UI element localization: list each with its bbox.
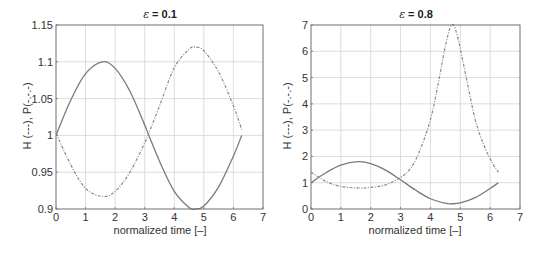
plot-background xyxy=(311,25,520,209)
y-tick-label: 7 xyxy=(302,19,308,31)
x-tick-label: 5 xyxy=(457,211,463,223)
x-tick-label: 7 xyxy=(517,211,523,223)
y-tick-label: 4 xyxy=(302,98,308,110)
x-tick-label: 0 xyxy=(308,211,314,223)
x-tick-label: 1 xyxy=(338,211,344,223)
y-tick-label: 2 xyxy=(302,150,308,162)
y-tick-label: 6 xyxy=(302,45,308,57)
chart-panel-eps-0.8: ε = 0.8 H (---), P(-.-.-) normalized tim… xyxy=(0,0,538,253)
x-tick-label: 2 xyxy=(368,211,374,223)
x-tick-label: 6 xyxy=(487,211,493,223)
y-tick-label: 3 xyxy=(302,124,308,136)
y-axis-label: H (---), P(-.-.-) xyxy=(281,51,293,181)
y-tick-label: 0 xyxy=(302,203,308,215)
y-tick-label: 1 xyxy=(302,177,308,189)
x-tick-label: 3 xyxy=(398,211,404,223)
x-axis-label: normalized time [–] xyxy=(355,224,475,236)
x-tick-label: 4 xyxy=(427,211,433,223)
y-tick-label: 5 xyxy=(302,72,308,84)
